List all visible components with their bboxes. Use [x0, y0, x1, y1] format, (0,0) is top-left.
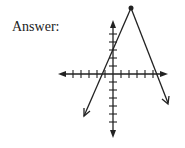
left-line	[84, 8, 131, 116]
y-axis-up-arrow-icon	[110, 20, 116, 28]
coordinate-graph	[0, 0, 185, 148]
x-axis-left-arrow-icon	[58, 71, 66, 77]
vertex-dot	[129, 6, 134, 11]
x-axis-right-arrow-icon	[160, 71, 168, 77]
y-axis-down-arrow-icon	[110, 130, 116, 138]
right-line	[131, 8, 168, 103]
